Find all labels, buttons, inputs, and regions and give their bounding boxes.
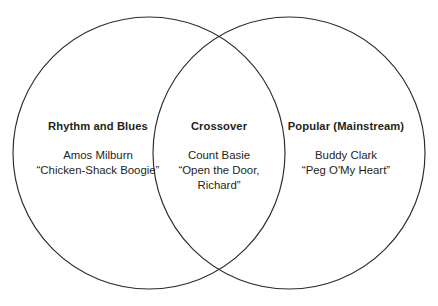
region-left-body-line-2: “Chicken-Shack Boogie” xyxy=(18,163,178,178)
region-left-title: Rhythm and Blues xyxy=(18,119,178,133)
region-left-rhythm-and-blues: Rhythm and Blues Amos Milburn “Chicken-S… xyxy=(18,119,178,178)
region-right-popular-mainstream: Popular (Mainstream) Buddy Clark “Peg O'… xyxy=(268,119,424,178)
venn-diagram-canvas: Rhythm and Blues Amos Milburn “Chicken-S… xyxy=(0,0,438,306)
region-center-body-line-1: Count Basie xyxy=(165,148,273,163)
region-left-body-line-1: Amos Milburn xyxy=(18,148,178,163)
region-center-body-line-2: “Open the Door, xyxy=(165,163,273,178)
region-center-body: Count Basie “Open the Door, Richard” xyxy=(165,148,273,192)
region-right-title: Popular (Mainstream) xyxy=(268,119,424,133)
region-left-body: Amos Milburn “Chicken-Shack Boogie” xyxy=(18,148,178,177)
region-right-body-line-1: Buddy Clark xyxy=(268,148,424,163)
region-center-crossover: Crossover Count Basie “Open the Door, Ri… xyxy=(165,119,273,192)
region-right-body: Buddy Clark “Peg O'My Heart” xyxy=(268,148,424,177)
region-center-body-line-3: Richard” xyxy=(165,178,273,193)
region-right-body-line-2: “Peg O'My Heart” xyxy=(268,163,424,178)
region-center-title: Crossover xyxy=(165,119,273,133)
